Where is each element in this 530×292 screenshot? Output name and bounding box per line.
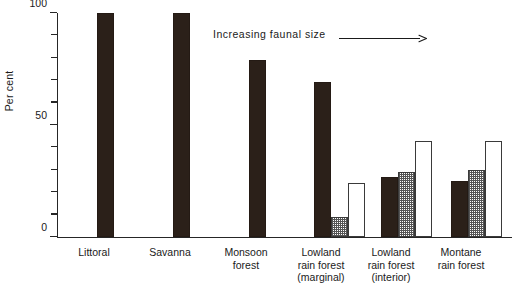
y-tick-minor-20 xyxy=(51,191,57,192)
x-axis-label-savanna: Savanna xyxy=(133,246,207,259)
y-tick-50 xyxy=(50,124,58,125)
bar-lowland-marginal-open xyxy=(348,183,365,237)
bar-group-lowland-marginal xyxy=(303,13,373,237)
y-tick-minor-70 xyxy=(51,79,57,80)
y-tick-0 xyxy=(50,236,58,237)
y-tick-minor-80 xyxy=(51,57,57,58)
y-tick-label-50: 50 xyxy=(13,109,47,120)
bar-group-montane xyxy=(440,13,510,237)
y-tick-label-100: 100 xyxy=(13,0,47,8)
bar-montane-solid xyxy=(451,181,468,237)
bar-chart-figure: Per cent 100 50 0 xyxy=(0,0,530,292)
y-tick-minor-40 xyxy=(51,146,57,147)
bar-lowland-interior-solid xyxy=(381,177,398,237)
y-tick-minor-60 xyxy=(51,101,57,102)
bar-littoral-solid xyxy=(97,13,114,237)
bar-lowland-marginal-solid xyxy=(314,82,331,237)
right-arrow-icon xyxy=(339,34,427,43)
y-tick-label-0: 0 xyxy=(13,221,47,232)
bar-savanna-solid xyxy=(173,13,190,237)
y-tick-minor-30 xyxy=(51,169,57,170)
y-tick-minor-10 xyxy=(51,213,57,214)
bar-group-savanna xyxy=(151,13,207,237)
plot-area: 100 50 0 xyxy=(57,13,512,237)
bar-group-lowland-interior xyxy=(370,13,440,237)
bar-group-littoral xyxy=(75,13,131,237)
x-axis-line xyxy=(57,237,512,238)
bar-montane-open xyxy=(485,141,502,237)
bar-lowland-marginal-stippled xyxy=(331,217,348,237)
bar-lowland-interior-stippled xyxy=(398,172,415,237)
x-axis-label-monsoon-forest: Monsoon forest xyxy=(209,246,283,271)
bar-montane-stippled xyxy=(468,170,485,237)
y-axis-line xyxy=(57,13,58,237)
y-tick-100 xyxy=(50,12,58,13)
x-axis-label-lowland-interior: Lowland rain forest (interior) xyxy=(351,246,431,284)
x-axis-label-lowland-marginal: Lowland rain forest (marginal) xyxy=(281,246,361,284)
annotation-increasing-faunal-size: Increasing faunal size xyxy=(213,28,326,40)
bar-lowland-interior-open xyxy=(415,141,432,237)
bar-monsoon-forest-solid xyxy=(249,60,266,237)
bar-group-monsoon-forest xyxy=(227,13,283,237)
y-tick-minor-90 xyxy=(51,34,57,35)
x-axis-label-littoral: Littoral xyxy=(57,246,131,259)
x-axis-label-montane: Montane rain forest xyxy=(421,246,501,271)
